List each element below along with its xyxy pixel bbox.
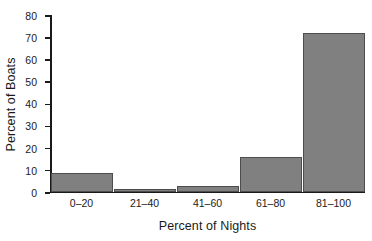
y-axis-tick-label: 30 <box>25 121 37 132</box>
bar <box>114 189 176 192</box>
bar-chart-figure: Percent of Boats 01020304050607080 0–202… <box>0 0 372 241</box>
y-axis-tick-label: 50 <box>25 77 37 88</box>
x-axis-tick-label: 0–20 <box>50 198 113 209</box>
x-axis-tick-label: 41–60 <box>176 198 239 209</box>
y-axis-tick-mark: 0 <box>45 192 50 194</box>
x-axis-tick-label: 21–40 <box>113 198 176 209</box>
plot-area: 01020304050607080 <box>50 15 365 193</box>
y-axis-tick-label: 80 <box>25 11 37 22</box>
bar <box>303 33 365 191</box>
y-axis-title: Percent of Boats <box>0 0 22 241</box>
bar-series <box>50 15 365 192</box>
bar <box>51 173 113 192</box>
y-axis-tick-label: 60 <box>25 55 37 66</box>
y-axis-tick-label: 40 <box>25 99 37 110</box>
y-axis-tick-label: 0 <box>31 188 37 199</box>
x-axis-title: Percent of Nights <box>50 219 365 233</box>
y-axis-tick-label: 10 <box>25 165 37 176</box>
y-axis-title-text: Percent of Boats <box>4 58 18 152</box>
y-axis-tick-label: 70 <box>25 33 37 44</box>
x-axis-tick-label: 61–80 <box>239 198 302 209</box>
bar <box>240 157 302 191</box>
x-axis-tick-label: 81–100 <box>302 198 365 209</box>
bar <box>177 186 239 192</box>
y-axis-tick-label: 20 <box>25 143 37 154</box>
